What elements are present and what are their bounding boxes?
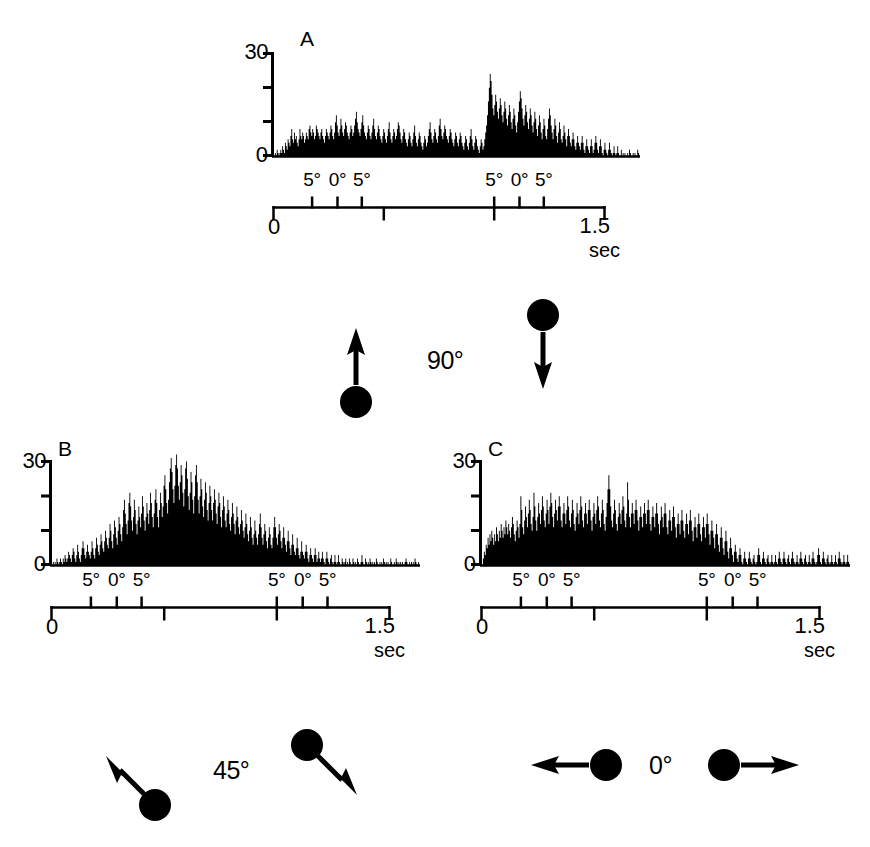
dot-arrow-down-icon [527,299,559,389]
panel-a: A 30 0 5°0°5°5°0°5 [0,0,870,270]
panel-b-histogram [52,455,420,566]
eye-position-label: 5° [340,170,384,189]
dot-arrow-up-left-icon [106,756,171,821]
panel-b: B 30 0 5°0°5°5°0°5° [0,430,440,670]
stimulus-45-angle-label: 45° [213,758,249,783]
panel-a-time-unit-label: sec [545,240,620,260]
panel-b-y-axis [41,460,51,565]
stimulus-0-angle-label: 0° [649,753,672,778]
panel-c-histogram [482,475,850,565]
stimulus-90-angle-label: 90° [427,348,463,373]
panel-b-time-end-label: 1.5 [330,615,395,637]
panel-c: C 30 0 5°0°5°5°0°5° [430,430,870,670]
panel-c-time-end-label: 1.5 [760,615,825,637]
panel-a-histogram [274,74,640,156]
eye-position-label: 5° [550,570,594,589]
panel-c-time-start-label: 0 [476,616,488,638]
panel-b-time-start-label: 0 [46,616,58,638]
panel-a-time-end-label: 1.5 [545,215,610,237]
stimulus-group-0: 0° [430,715,870,847]
eye-position-label: 5° [306,570,350,589]
stimulus-group-90: 90° [0,285,870,420]
panel-c-y-axis [471,460,481,565]
panel-a-y-axis [263,52,273,156]
panel-c-time-unit-label: sec [760,640,835,660]
panel-a-plot [0,0,870,270]
panel-b-time-unit-label: sec [330,640,405,660]
eye-position-label: 5° [120,570,164,589]
stimulus-group-45: 45° [0,715,440,847]
eye-position-label: 5° [736,570,780,589]
dot-arrow-left-icon [531,749,622,781]
eye-position-label: 5° [522,170,566,189]
dot-arrow-down-right-icon [291,729,357,795]
panel-a-time-start-label: 0 [268,216,280,238]
dot-arrow-up-icon [340,328,372,418]
dot-arrow-right-icon [708,749,799,781]
figure-canvas: A 30 0 5°0°5°5°0°5 [0,0,870,847]
